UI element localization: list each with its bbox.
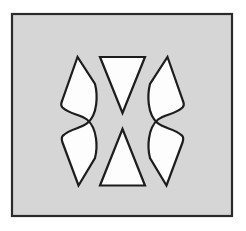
illusion-canvas: Figure-ground reversal illusion Light gr… — [0, 0, 246, 231]
figure-ground-illusion-image: Figure-ground reversal illusion Light gr… — [0, 0, 246, 231]
